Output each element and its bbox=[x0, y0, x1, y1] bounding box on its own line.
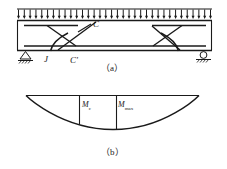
caption-panel-b: （b） bbox=[101, 148, 124, 157]
strut-right-descending bbox=[153, 26, 182, 47]
load-arrow-head bbox=[58, 16, 61, 19]
load-arrow-head bbox=[168, 16, 171, 19]
load-arrow-head bbox=[157, 16, 160, 19]
strut-left-descending bbox=[47, 26, 76, 47]
label-C-prime: C' bbox=[70, 56, 78, 65]
load-arrow-head bbox=[139, 16, 142, 19]
load-arrow-head bbox=[162, 16, 165, 19]
load-arrow-head bbox=[75, 16, 78, 19]
load-arrow-head bbox=[29, 16, 32, 19]
load-arrow-head bbox=[34, 16, 37, 19]
load-arrow-head bbox=[180, 16, 183, 19]
load-arrow-head bbox=[110, 16, 113, 19]
left-pinned-support bbox=[18, 52, 33, 64]
moment-curve bbox=[26, 96, 199, 130]
load-arrow-head bbox=[23, 16, 26, 19]
figure-container: C J C' Mc Mmax （a） （b） bbox=[0, 0, 227, 169]
label-moment-max-subscript: max bbox=[125, 106, 134, 111]
load-arrow-head bbox=[116, 16, 119, 19]
load-arrow-head bbox=[186, 16, 189, 19]
load-arrow-head bbox=[40, 16, 43, 19]
load-arrow-head bbox=[64, 16, 67, 19]
load-arrow-head bbox=[133, 16, 136, 19]
load-arrow-head bbox=[104, 16, 107, 19]
right-roller-support bbox=[196, 52, 211, 63]
load-arrow-head bbox=[151, 16, 154, 19]
load-arrow-head bbox=[192, 16, 195, 19]
load-arrow-head bbox=[174, 16, 177, 19]
load-arrow-head bbox=[52, 16, 55, 19]
panel-b-moment-diagram bbox=[26, 96, 199, 130]
load-arrow-head bbox=[122, 16, 125, 19]
label-moment-c: Mc bbox=[82, 101, 91, 111]
load-arrow-head bbox=[197, 16, 200, 19]
load-arrow-head bbox=[128, 16, 131, 19]
load-arrow-head bbox=[46, 16, 49, 19]
label-moment-c-base: M bbox=[82, 100, 89, 109]
distributed-load-arrows bbox=[17, 10, 212, 20]
load-arrow-head bbox=[81, 16, 84, 19]
label-C: C bbox=[93, 20, 99, 29]
load-arrow-head bbox=[145, 16, 148, 19]
figure-drawing bbox=[0, 0, 227, 169]
load-arrow-head bbox=[17, 16, 20, 19]
load-arrow-head bbox=[209, 16, 212, 19]
label-moment-max-base: M bbox=[118, 100, 125, 109]
load-arrow-head bbox=[69, 16, 72, 19]
label-J: J bbox=[44, 55, 48, 64]
load-arrow-head bbox=[87, 16, 90, 19]
label-moment-max: Mmax bbox=[118, 101, 133, 111]
load-arrow-head bbox=[203, 16, 206, 19]
caption-panel-a: （a） bbox=[101, 64, 123, 73]
label-moment-c-subscript: c bbox=[89, 106, 91, 111]
